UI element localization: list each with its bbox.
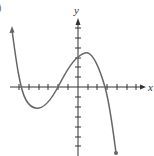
x-axis-label: x — [147, 81, 153, 93]
graph: x y — [0, 0, 154, 156]
y-axis-arrow-icon — [76, 18, 81, 25]
x-axis-arrow-icon — [140, 85, 146, 90]
curve-end-dot — [114, 151, 118, 155]
function-curve — [12, 30, 116, 153]
y-axis-label: y — [73, 4, 79, 16]
curve-left-arrow-icon — [10, 26, 15, 33]
